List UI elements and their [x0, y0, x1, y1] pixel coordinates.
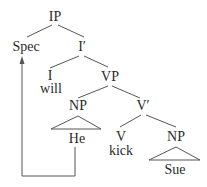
word-he: He — [69, 131, 85, 146]
triangle-np-sue — [149, 147, 200, 160]
node-ip: IP — [49, 9, 62, 24]
word-sue: Sue — [165, 162, 186, 177]
branch-ibar-i — [50, 56, 79, 68]
node-np-subject: NP — [69, 98, 87, 113]
branch-vp-vbar — [112, 86, 140, 98]
branch-vbar-v — [120, 115, 141, 127]
node-ibar: I′ — [78, 39, 86, 54]
node-spec: Spec — [12, 39, 39, 54]
node-vp: VP — [101, 69, 119, 84]
word-kick: kick — [109, 143, 133, 158]
node-np-object: NP — [167, 129, 185, 144]
branch-vp-np — [78, 86, 108, 98]
arrowhead-icon — [20, 56, 25, 64]
triangle-np-he — [51, 116, 101, 129]
branch-ip-spec — [27, 25, 52, 37]
branch-ibar-vp — [84, 56, 108, 67]
word-will: will — [40, 81, 62, 96]
node-vbar: V′ — [136, 98, 149, 113]
syntax-tree-diagram: IP Spec I′ I will VP NP He V′ V kick NP … — [0, 0, 207, 187]
node-v: V — [116, 129, 126, 144]
branch-ip-ibar — [58, 25, 84, 37]
branch-vbar-np — [146, 115, 176, 127]
